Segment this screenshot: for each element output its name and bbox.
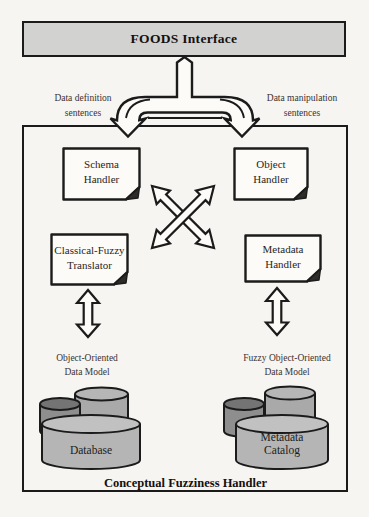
metadata-catalog-label: Metadata Catalog	[236, 431, 328, 457]
metadata-handler-label: Metadata Handler	[263, 242, 304, 276]
foods-interface-header: FOODS Interface	[22, 21, 346, 57]
classical-fuzzy-translator-document: Classical-Fuzzy Translator	[50, 233, 129, 286]
schema-handler-document: Schema Handler	[62, 147, 141, 201]
database-label: Database	[42, 444, 140, 457]
data-manipulation-label: Data manipulation sentences	[252, 91, 352, 120]
fuzzy-object-oriented-data-model-label: Fuzzy Object-Oriented Data Model	[227, 351, 347, 380]
metadata-catalog-cylinders-icon	[222, 383, 332, 471]
schema-handler-label: Schema Handler	[84, 157, 119, 191]
foods-interface-title: FOODS Interface	[131, 31, 238, 47]
translator-datastore-arrow-icon	[75, 289, 101, 338]
conceptual-fuzziness-handler-label: Conceptual Fuzziness Handler	[22, 476, 349, 491]
object-oriented-data-model-label: Object-Oriented Data Model	[37, 351, 137, 380]
object-handler-document: Object Handler	[233, 147, 309, 201]
crossed-exchange-arrows-icon	[148, 182, 218, 252]
metadata-datastore-arrow-icon	[264, 287, 290, 336]
object-handler-label: Object Handler	[253, 157, 288, 191]
database-cylinders-icon	[36, 383, 144, 471]
classical-fuzzy-translator-label: Classical-Fuzzy Translator	[54, 243, 124, 277]
diagram: FOODS Interface Conceptual Fuzziness Han…	[0, 0, 369, 517]
metadata-handler-document: Metadata Handler	[244, 234, 322, 283]
data-definition-label: Data definition sentences	[38, 91, 128, 120]
